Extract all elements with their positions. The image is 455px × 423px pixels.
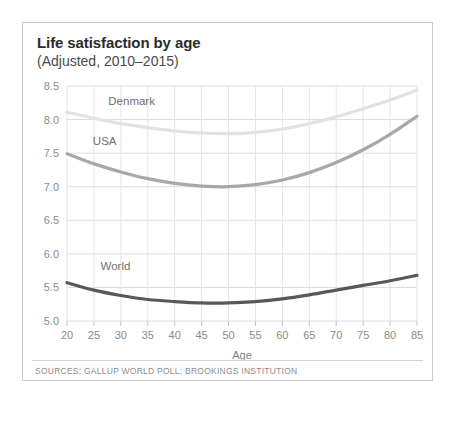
y-tick-label: 6.0 [44, 248, 59, 260]
series-line-usa [67, 116, 417, 187]
x-tick-label: 20 [61, 329, 73, 341]
x-tick-label: 70 [330, 329, 342, 341]
series-label-usa: USA [93, 135, 117, 147]
x-tick-label: 85 [411, 329, 423, 341]
series-line-world [67, 275, 417, 303]
x-tick-label: 45 [195, 329, 207, 341]
y-tick-label: 7.0 [44, 181, 59, 193]
footer-divider [32, 360, 423, 361]
x-tick-label: 80 [384, 329, 396, 341]
line-chart: 5.05.56.06.57.07.58.08.5 202530354045505… [23, 23, 434, 363]
y-tick-label: 8.5 [44, 80, 59, 92]
x-tick-label: 25 [88, 329, 100, 341]
x-tick-label: 40 [169, 329, 181, 341]
x-tick-label: 35 [142, 329, 154, 341]
x-tick-label: 50 [222, 329, 234, 341]
chart-card: Life satisfaction by age (Adjusted, 2010… [22, 22, 433, 381]
source-note: SOURCES: GALLUP WORLD POLL; BROOKINGS IN… [35, 366, 297, 376]
series-label-denmark: Denmark [108, 95, 155, 107]
y-tick-label: 5.5 [44, 281, 59, 293]
x-tick-marks [67, 321, 417, 326]
x-tick-label: 55 [249, 329, 261, 341]
y-tick-label: 7.5 [44, 147, 59, 159]
y-tick-label: 8.0 [44, 114, 59, 126]
y-tick-label: 6.5 [44, 214, 59, 226]
x-tick-label: 30 [115, 329, 127, 341]
x-tick-label: 65 [303, 329, 315, 341]
y-tick-labels: 5.05.56.06.57.07.58.08.5 [44, 80, 59, 327]
series-label-world: World [101, 260, 131, 272]
y-tick-label: 5.0 [44, 315, 59, 327]
x-tick-label: 75 [357, 329, 369, 341]
x-tick-label: 60 [276, 329, 288, 341]
x-tick-labels: 2025303540455055606570758085 [61, 329, 423, 341]
